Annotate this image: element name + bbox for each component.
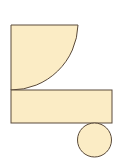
rectangle-shape bbox=[11, 90, 112, 123]
circle-shape bbox=[78, 123, 112, 157]
geometry-diagram bbox=[0, 0, 119, 164]
quarter-circle-shape bbox=[11, 25, 78, 90]
